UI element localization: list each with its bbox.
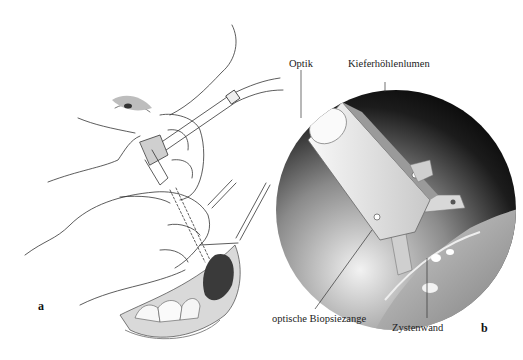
panel-a-illustration: a [0,0,290,360]
panel-b-illustration: Optik Kieferhöhlenlumen optische Biopsie… [270,0,523,360]
label-optische-biopsiezange: optische Biopsiezange [272,313,366,324]
label-optik: Optik [289,58,313,69]
label-kieferhoehlenlumen: Kieferhöhlenlumen [348,58,430,69]
endoscopic-view-drawing [270,0,523,360]
panel-letter-b: b [481,321,488,336]
panel-letter-a: a [38,299,44,314]
label-zystenwand: Zystenwand [392,322,443,333]
